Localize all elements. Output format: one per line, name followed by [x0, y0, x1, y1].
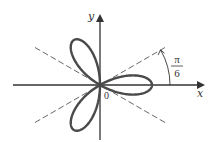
angle-arc — [161, 50, 170, 85]
rose-diagram: y x 0 π 6 — [0, 0, 215, 142]
origin-label: 0 — [104, 90, 109, 101]
x-axis-label: x — [197, 87, 204, 100]
angle-label-numerator: π — [174, 53, 180, 65]
y-axis-label: y — [87, 10, 95, 23]
angle-arc-arrowhead — [158, 50, 165, 55]
angle-label-denominator: 6 — [174, 67, 180, 79]
